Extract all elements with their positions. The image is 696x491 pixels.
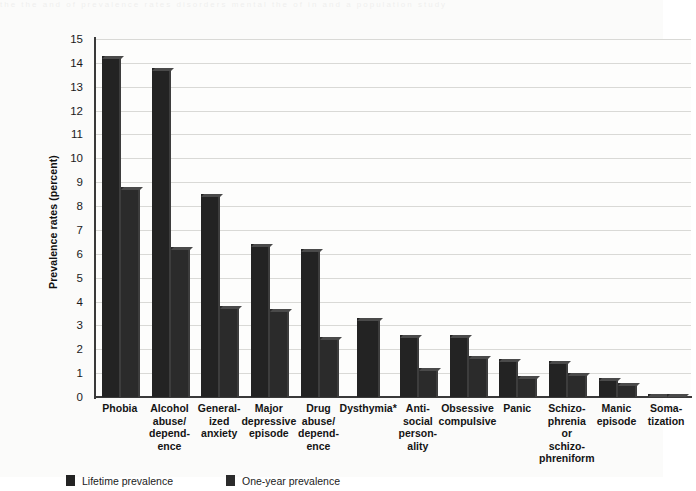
bar-one-year-prevalence [419, 368, 436, 397]
y-tick-label: 12 [70, 105, 83, 117]
y-tick-label: 2 [77, 343, 83, 355]
bar-group [301, 39, 337, 397]
bar-one-year-prevalence [568, 373, 585, 397]
x-axis-label-line: depend- [287, 427, 351, 440]
y-tick-label: 3 [77, 319, 83, 331]
y-tick-label: 7 [77, 224, 83, 236]
legend-item[interactable]: One-year prevalence [226, 471, 340, 487]
x-axis-label-line: or [535, 427, 599, 440]
y-tick-label: 15 [70, 33, 83, 45]
y-tick-label: 9 [77, 176, 83, 188]
y-tick-label: 0 [77, 391, 83, 403]
y-axis-title: Prevalence rates (percent) [47, 127, 59, 317]
bar-group [251, 39, 287, 397]
bar-one-year-prevalence [320, 337, 337, 397]
bar-groups [95, 39, 691, 397]
legend-swatch-icon [226, 475, 235, 486]
bar-group [499, 39, 535, 397]
bar-group [450, 39, 486, 397]
bar-group [102, 39, 138, 397]
x-axis-category-labels: PhobiaAlcoholabuse/depend-enceGeneral-iz… [95, 402, 691, 490]
bar-lifetime-prevalence [648, 394, 665, 397]
scan-bleed-through: the the and of prevalence rates disorder… [0, 0, 663, 14]
x-axis-label-line: tization [634, 415, 696, 428]
bar-one-year-prevalence [171, 247, 188, 397]
bar-group [201, 39, 237, 397]
y-tick-label: 5 [77, 272, 83, 284]
y-tick-label: 11 [71, 128, 83, 140]
y-tick-label: 14 [70, 57, 83, 69]
x-axis-label-line: compulsive [436, 415, 500, 428]
x-axis-label: Soma-tization [634, 402, 696, 427]
x-axis-label-line: ence [287, 440, 351, 453]
bar-one-year-prevalence [667, 394, 684, 397]
bar-group [648, 39, 684, 397]
x-axis-label-line: phreniform [535, 452, 599, 465]
bar-lifetime-prevalence [152, 68, 169, 397]
bar-one-year-prevalence [121, 187, 138, 397]
bar-lifetime-prevalence [400, 335, 417, 397]
bar-one-year-prevalence [469, 356, 486, 397]
x-axis-label-line: ality [386, 440, 450, 453]
bar-lifetime-prevalence [357, 318, 378, 397]
x-axis-label-line: person- [386, 427, 450, 440]
bar-lifetime-prevalence [301, 249, 318, 397]
x-axis-label-line: schizo- [535, 440, 599, 453]
bar-lifetime-prevalence [549, 361, 566, 397]
bar-group [357, 39, 380, 397]
bar-lifetime-prevalence [251, 244, 268, 397]
prevalence-bar-chart: 0123456789101112131415 Prevalence rates … [40, 16, 696, 491]
bar-lifetime-prevalence [201, 194, 218, 397]
y-tick-label: 1 [77, 367, 83, 379]
y-tick-label: 6 [77, 248, 83, 260]
y-tick-label: 13 [70, 81, 83, 93]
legend-swatch-icon [66, 475, 75, 486]
y-tick-label: 8 [77, 200, 83, 212]
bar-lifetime-prevalence [450, 335, 467, 397]
x-axis-label-line: Soma- [634, 402, 696, 415]
legend-item[interactable]: Lifetime prevalence [66, 471, 173, 487]
bar-one-year-prevalence [618, 383, 635, 397]
bar-one-year-prevalence [518, 376, 535, 397]
bar-group [599, 39, 635, 397]
bar-one-year-prevalence [220, 306, 237, 397]
legend-label: Lifetime prevalence [82, 475, 173, 487]
bar-lifetime-prevalence [102, 56, 119, 397]
bar-lifetime-prevalence [599, 378, 616, 397]
y-tick-label: 10 [70, 152, 83, 164]
bar-group [152, 39, 188, 397]
bar-lifetime-prevalence [499, 359, 516, 397]
bar-group [549, 39, 585, 397]
x-axis-label-line: ence [138, 440, 202, 453]
legend-label: One-year prevalence [242, 475, 340, 487]
bar-one-year-prevalence [270, 309, 287, 397]
bar-group [400, 39, 436, 397]
x-axis-label-line: abuse/ [287, 415, 351, 428]
y-tick-label: 4 [77, 296, 83, 308]
